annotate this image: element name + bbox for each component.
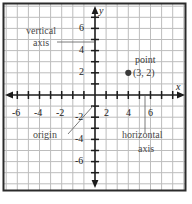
y-tick-label--2: -2: [75, 112, 83, 122]
x-tick-label-2: 2: [104, 108, 109, 118]
vertical-axis-callout-line2: axis: [33, 38, 49, 48]
y-axis-name: y: [99, 6, 103, 16]
y-tick-label-2: 2: [79, 67, 84, 77]
y-tick-label--4: -4: [75, 134, 83, 144]
x-tick-label--2: -2: [56, 108, 64, 118]
vertical-axis-callout-line1: vertical: [26, 26, 56, 36]
x-tick-label--6: -6: [12, 108, 20, 118]
y-tick-label--6: -6: [75, 156, 83, 166]
y-tick-label-6: 6: [79, 23, 84, 33]
y-tick-label-4: 4: [79, 45, 84, 55]
coordinate-plane-figure: -6 -4 -2 2 4 6 6 4 2 -2 -4 -6 y x vertic…: [0, 0, 192, 204]
horizontal-axis-callout-line2: axis: [138, 144, 154, 154]
point-callout-word: point: [135, 55, 156, 65]
x-tick-label-4: 4: [126, 108, 131, 118]
point-coordinates-label: (3, 2): [133, 68, 155, 78]
horizontal-axis-callout-line1: horizontal: [122, 130, 163, 140]
plotted-point-3-2[interactable]: [125, 70, 131, 76]
x-axis-name: x: [176, 82, 180, 92]
x-tick-label-6: 6: [148, 108, 153, 118]
x-tick-label--4: -4: [34, 108, 42, 118]
origin-callout: origin: [33, 130, 57, 140]
